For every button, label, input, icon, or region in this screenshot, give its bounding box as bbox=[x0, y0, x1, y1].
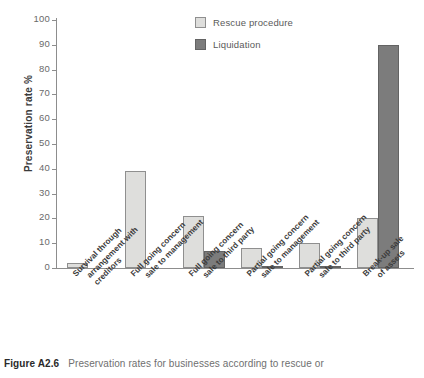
y-tick-text: 50 bbox=[39, 137, 56, 148]
legend-item-liquidation[interactable]: Liquidation bbox=[195, 39, 293, 50]
y-tick-label: 70 bbox=[0, 87, 56, 98]
y-tick-label: 50 bbox=[0, 137, 56, 148]
y-tick-label: 80 bbox=[0, 63, 56, 74]
y-tick-label: 100 bbox=[0, 13, 56, 24]
y-tick-text: 80 bbox=[39, 63, 56, 74]
legend-label-rescue: Rescue procedure bbox=[213, 17, 293, 28]
y-tick-label: 30 bbox=[0, 187, 56, 198]
y-tick-text: 40 bbox=[39, 162, 56, 173]
figure-caption: Figure A2.6Preservation rates for busine… bbox=[4, 358, 422, 369]
chart-legend: Rescue procedure Liquidation bbox=[195, 17, 293, 61]
bar-group bbox=[67, 20, 111, 268]
y-tick-label: 60 bbox=[0, 112, 56, 123]
y-tick-label: 90 bbox=[0, 38, 56, 49]
y-tick-text: 20 bbox=[39, 211, 56, 222]
y-tick-text: 60 bbox=[39, 112, 56, 123]
caption-text: Preservation rates for businesses accord… bbox=[68, 358, 324, 369]
y-tick-text: 70 bbox=[39, 87, 56, 98]
legend-label-liquidation: Liquidation bbox=[213, 39, 261, 50]
figure-container: Preservation rate % 10090807060504030201… bbox=[0, 0, 424, 378]
legend-swatch-icon-rescue bbox=[195, 17, 206, 28]
y-tick-label: 40 bbox=[0, 162, 56, 173]
y-tick-text: 10 bbox=[39, 236, 56, 247]
y-tick-label: 10 bbox=[0, 236, 56, 247]
y-tick-label: 20 bbox=[0, 211, 56, 222]
y-tick-label: 0 bbox=[0, 261, 56, 272]
y-tick-text: 30 bbox=[39, 187, 56, 198]
y-tick-text: 90 bbox=[39, 38, 56, 49]
y-tick-text: 0 bbox=[45, 261, 56, 272]
legend-swatch-icon-liquidation bbox=[195, 39, 206, 50]
figure-number: Figure A2.6 bbox=[4, 358, 59, 369]
legend-item-rescue-procedure[interactable]: Rescue procedure bbox=[195, 17, 293, 28]
y-tick-text: 100 bbox=[34, 13, 56, 24]
bar-liquidation[interactable] bbox=[378, 45, 399, 268]
